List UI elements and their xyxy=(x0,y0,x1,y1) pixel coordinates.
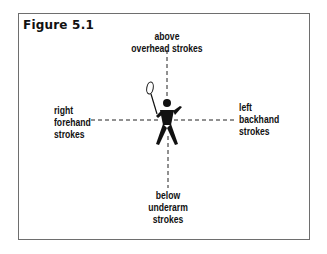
badminton-player-icon xyxy=(146,82,182,145)
label-line: strokes xyxy=(239,125,279,137)
label-right-forehand: right forehand strokes xyxy=(54,104,91,140)
label-line: below xyxy=(145,189,191,201)
label-above-overhead: above overhead strokes xyxy=(130,30,204,54)
label-line: underarm xyxy=(145,201,191,213)
label-line: left xyxy=(239,101,279,113)
label-line: strokes xyxy=(54,128,91,140)
label-line: overhead strokes xyxy=(130,42,204,54)
label-line: forehand xyxy=(54,116,91,128)
label-line: right xyxy=(54,104,91,116)
label-line: backhand xyxy=(239,113,279,125)
label-line: strokes xyxy=(145,213,191,225)
label-left-backhand: left backhand strokes xyxy=(239,101,279,137)
label-below-underarm: below underarm strokes xyxy=(145,189,191,225)
label-line: above xyxy=(130,30,204,42)
